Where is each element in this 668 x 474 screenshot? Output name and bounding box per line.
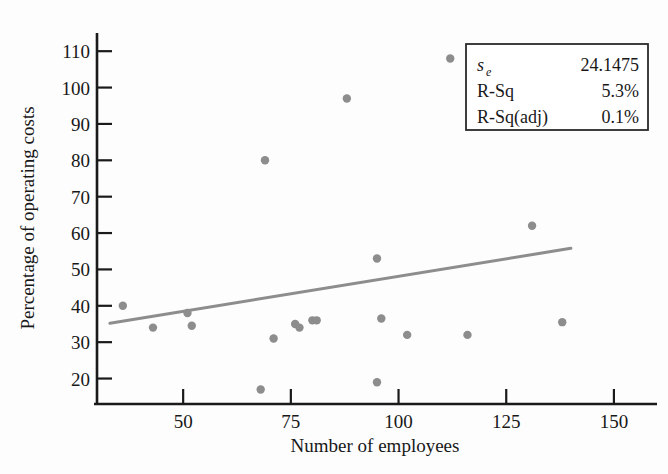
y-axis-title: Percentage of operating costs: [17, 106, 38, 329]
data-point: [373, 378, 381, 386]
y-tick-label-60: 60: [71, 223, 90, 244]
data-point: [295, 323, 303, 331]
stats-row-2-label: R-Sq(adj): [477, 107, 548, 128]
y-tick-label-70: 70: [71, 187, 90, 208]
x-tick-label-75: 75: [281, 411, 300, 432]
y-axis-tick-labels: 2030405060708090100110: [62, 41, 91, 389]
stats-row-0-value: 24.1475: [581, 55, 640, 75]
y-tick-label-100: 100: [62, 78, 91, 99]
plot-canvas: 2030405060708090100110 5075100125150 Num…: [0, 0, 668, 474]
data-point: [261, 156, 269, 164]
data-point: [119, 302, 127, 310]
stats-row-1-label: R-Sq: [477, 81, 514, 101]
x-axis-ticks: [183, 389, 614, 404]
stats-row-2-value: 0.1%: [602, 107, 640, 127]
x-axis-title: Number of employees: [291, 435, 460, 456]
data-point: [463, 331, 471, 339]
data-point: [558, 318, 566, 326]
regression-line: [110, 248, 571, 323]
y-axis-ticks: [97, 51, 112, 378]
data-point: [403, 331, 411, 339]
stats-row-1-value: 5.3%: [602, 81, 640, 101]
y-tick-label-50: 50: [71, 259, 90, 280]
y-tick-label-20: 20: [71, 369, 90, 390]
y-tick-label-80: 80: [71, 150, 90, 171]
x-tick-label-50: 50: [174, 411, 193, 432]
scatter-plot-figure: 2030405060708090100110 5075100125150 Num…: [0, 0, 668, 474]
data-point: [188, 322, 196, 330]
data-point: [373, 254, 381, 262]
x-axis-tick-labels: 5075100125150: [174, 411, 629, 432]
data-point: [269, 334, 277, 342]
x-tick-label-150: 150: [600, 411, 629, 432]
data-point: [256, 385, 264, 393]
data-point: [377, 314, 385, 322]
data-point: [528, 222, 536, 230]
y-tick-label-110: 110: [62, 41, 90, 62]
y-tick-label-90: 90: [71, 114, 90, 135]
stats-row-0-sublabel: e: [486, 65, 492, 79]
statistics-box: s e 24.1475 R-Sq 5.3% R-Sq(adj) 0.1%: [466, 44, 648, 130]
data-point: [312, 316, 320, 324]
y-tick-label-40: 40: [71, 296, 90, 317]
regression-line-group: [110, 248, 571, 323]
y-tick-label-30: 30: [71, 332, 90, 353]
data-point: [183, 309, 191, 317]
x-tick-label-125: 125: [492, 411, 521, 432]
stats-row-0-label: s: [477, 55, 484, 75]
data-point: [446, 54, 454, 62]
data-point: [343, 94, 351, 102]
x-tick-label-100: 100: [384, 411, 413, 432]
data-point: [149, 323, 157, 331]
